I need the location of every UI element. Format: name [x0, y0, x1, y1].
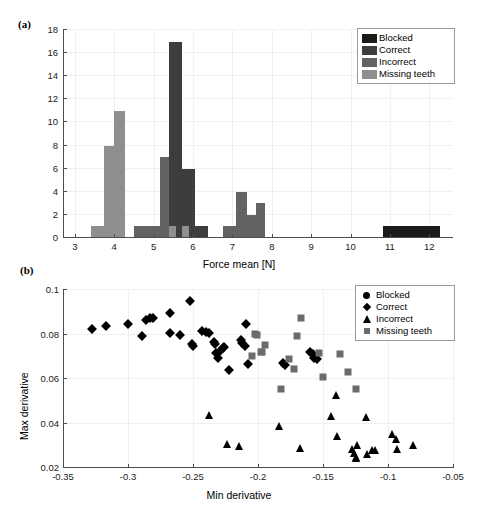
scatter-point-triangle — [409, 441, 417, 449]
legend-label: Incorrect — [376, 313, 413, 325]
square-icon — [364, 328, 370, 334]
x-tick-label: 10 — [339, 241, 363, 252]
legend-item: Correct — [362, 44, 450, 56]
scatter-point-square — [336, 350, 343, 357]
legend-item: Correct — [360, 301, 450, 313]
scatter-point-diamond — [175, 330, 185, 340]
y-tick-label: 0 — [33, 232, 58, 243]
scatter-point-triangle — [296, 444, 304, 452]
axis-tick — [193, 464, 194, 468]
y-tick-label: 0.08 — [29, 329, 59, 340]
scatter-point-square — [294, 333, 301, 340]
y-tick-label: 0.04 — [29, 418, 59, 429]
x-tick-label: -0.25 — [175, 471, 211, 482]
legend-marker-triangle — [360, 314, 373, 325]
y-tick-label: 10 — [33, 116, 58, 127]
scatter-point-square — [278, 386, 285, 393]
axis-tick — [351, 234, 352, 238]
scatter-point-triangle — [235, 442, 243, 450]
axis-tick — [63, 191, 67, 192]
legend-color-swatch — [362, 34, 377, 43]
scatter-point-square — [352, 385, 359, 392]
x-tick-label: -0.1 — [370, 471, 406, 482]
scatter-point-square — [286, 356, 293, 363]
histogram-bar — [236, 192, 248, 238]
axis-tick — [114, 234, 115, 238]
gridline-horizontal — [63, 423, 453, 424]
gridline-vertical — [154, 30, 155, 238]
panel-b-label: (b) — [20, 264, 33, 276]
axis-tick — [429, 234, 430, 238]
scatter-point-diamond — [165, 308, 175, 318]
axis-tick — [63, 289, 67, 290]
legend-color-swatch — [362, 58, 377, 67]
scatter-y-axis — [63, 290, 64, 468]
axis-tick — [63, 168, 67, 169]
x-tick-label: 6 — [181, 241, 205, 252]
scatter-point-triangle — [353, 441, 361, 449]
legend-item: Incorrect — [362, 56, 450, 68]
x-tick-label: 11 — [378, 241, 402, 252]
scatter-point-square — [258, 348, 265, 355]
axis-tick — [63, 121, 67, 122]
gridline-horizontal — [63, 378, 453, 379]
axis-tick — [388, 464, 389, 468]
scatter-point-triangle — [223, 440, 231, 448]
y-tick-label: 18 — [33, 24, 58, 35]
axis-tick — [272, 234, 273, 238]
axis-tick — [63, 52, 67, 53]
axis-tick — [154, 234, 155, 238]
x-tick-label: -0.3 — [110, 471, 146, 482]
axis-tick — [63, 214, 67, 215]
figure-container: (a) 3456789101112 024681012141618 Force … — [0, 0, 478, 522]
triangle-icon — [363, 315, 371, 323]
scatter-point-diamond — [123, 319, 133, 329]
x-tick-label: 9 — [299, 241, 323, 252]
x-tick-label: 5 — [142, 241, 166, 252]
legend-item: Blocked — [362, 32, 450, 44]
axis-tick — [232, 234, 233, 238]
legend-item: Incorrect — [360, 313, 450, 325]
scatter-point-diamond — [87, 324, 97, 334]
histogram-bar — [104, 146, 115, 238]
scatter-y-axis-title: Max derivative — [18, 372, 30, 440]
x-tick-label: -0.15 — [305, 471, 341, 482]
scatter-legend: BlockedCorrectIncorrectMissing teeth — [355, 285, 455, 341]
y-tick-label: 8 — [33, 140, 58, 151]
x-tick-label: 8 — [260, 241, 284, 252]
histogram-bar — [160, 157, 169, 238]
y-tick-label: 14 — [33, 70, 58, 81]
axis-tick — [193, 234, 194, 238]
circle-icon — [363, 292, 370, 299]
scatter-point-square — [261, 341, 268, 348]
axis-tick — [128, 464, 129, 468]
scatter-point-square — [344, 368, 351, 375]
histogram-bar — [114, 111, 125, 238]
scatter-point-triangle — [332, 391, 340, 399]
gridline-vertical — [232, 30, 233, 238]
diamond-icon — [362, 303, 370, 311]
scatter-point-square — [297, 315, 304, 322]
x-tick-label: 7 — [220, 241, 244, 252]
gridline-vertical — [193, 290, 194, 468]
axis-tick — [390, 234, 391, 238]
histogram-bar — [169, 42, 182, 238]
y-tick-label: 0.06 — [29, 373, 59, 384]
gridline-vertical — [311, 30, 312, 238]
legend-label: Correct — [376, 301, 407, 313]
axis-tick — [63, 98, 67, 99]
y-tick-label: 12 — [33, 93, 58, 104]
y-tick-label: 4 — [33, 186, 58, 197]
legend-item: Blocked — [360, 289, 450, 301]
scatter-point-diamond — [165, 328, 175, 338]
scatter-point-triangle — [327, 412, 335, 420]
scatter-x-axis-title: Min derivative — [0, 489, 478, 501]
legend-label: Correct — [379, 44, 410, 56]
scatter-point-square — [316, 349, 323, 356]
y-tick-label: 6 — [33, 163, 58, 174]
x-tick-label: 3 — [63, 241, 87, 252]
scatter-point-triangle — [371, 446, 379, 454]
scatter-point-triangle — [393, 445, 401, 453]
axis-tick — [63, 378, 67, 379]
y-tick-label: 0.02 — [29, 462, 59, 473]
